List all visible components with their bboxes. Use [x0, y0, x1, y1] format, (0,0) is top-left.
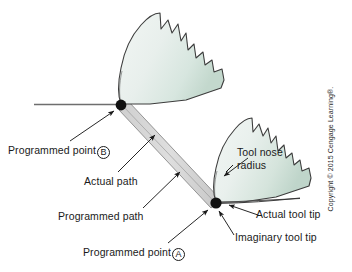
label-actual-tool-tip-text: Actual tool tip — [256, 208, 321, 220]
label-actual-tool-tip: Actual tool tip — [256, 208, 321, 220]
leader-actual-path — [118, 135, 155, 172]
label-imaginary-tool-tip-text: Imaginary tool tip — [235, 231, 317, 243]
label-programmed-point-b: Programmed pointB — [8, 144, 110, 159]
label-tool-nose-radius: Tool nose radius — [237, 146, 283, 172]
upper-tool-insert — [119, 13, 224, 104]
leader-programmed-path — [143, 172, 180, 208]
leader-imaginary-tool-tip — [219, 211, 234, 235]
programmed-point-b-marker — [116, 100, 127, 111]
tool-nose-radius-figure: Programmed pointB Actual path Programmed… — [0, 0, 352, 272]
label-tool-nose-radius-line2: radius — [237, 159, 283, 172]
label-imaginary-tool-tip: Imaginary tool tip — [235, 231, 317, 243]
programmed-path-line — [123, 106, 217, 204]
label-programmed-point-a: Programmed pointA — [83, 246, 185, 261]
label-actual-path: Actual path — [84, 175, 138, 187]
label-programmed-point-a-marker: A — [172, 248, 185, 261]
label-programmed-point-a-text: Programmed point — [83, 246, 171, 258]
label-actual-path-text: Actual path — [84, 175, 138, 187]
label-programmed-path-text: Programmed path — [58, 210, 144, 222]
leader-programmed-point-b — [70, 111, 114, 141]
label-tool-nose-radius-line1: Tool nose — [237, 146, 283, 159]
actual-path-band — [119, 101, 221, 208]
label-programmed-path: Programmed path — [58, 210, 144, 222]
leader-programmed-point-a — [168, 210, 208, 243]
copyright-attribution: Copyright © 2015 Cengage Learning®. — [327, 100, 334, 212]
leader-actual-tool-tip — [229, 205, 258, 215]
label-programmed-point-b-text: Programmed point — [8, 144, 96, 156]
label-programmed-point-b-marker: B — [97, 146, 110, 159]
programmed-point-a-marker — [210, 197, 221, 208]
